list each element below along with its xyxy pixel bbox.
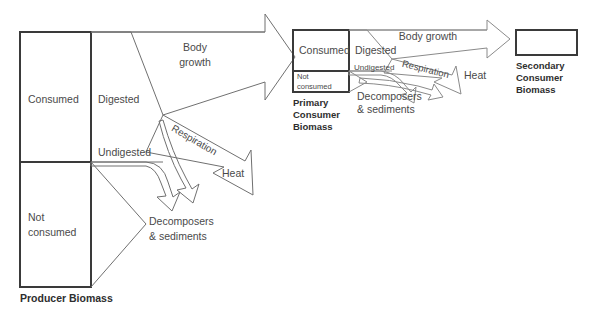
body-growth-label-level1-line2: growth [179, 56, 211, 68]
decomposers-label-level2-line1: Decomposers [357, 90, 422, 102]
energy-flow-diagram: Consumed Not consumed Producer Biomass D… [0, 0, 594, 324]
undigested-decomposer-arrow-level1 [91, 162, 180, 211]
producer-biomass-caption: Producer Biomass [20, 292, 113, 304]
undigested-label-level2: Undigested [354, 63, 394, 72]
secondary-biomass-caption-line2: Consumer [516, 72, 563, 83]
digested-label-level1: Digested [98, 93, 140, 105]
primary-not-consumed-label-line1: Not [297, 72, 310, 81]
primary-not-consumed-label-line2: consumed [297, 82, 332, 91]
primary-biomass-caption-line1: Primary [293, 97, 329, 108]
secondary-biomass-caption-line1: Secondary [516, 60, 565, 71]
body-growth-label-level2: Body growth [399, 30, 458, 42]
heat-label-level1: Heat [222, 167, 244, 179]
primary-biomass-caption-line3: Biomass [293, 121, 333, 132]
flow-diagram-canvas: Consumed Not consumed Producer Biomass D… [0, 0, 594, 324]
decomposers-label-level1-line2: & sediments [149, 230, 207, 242]
respiration-arrow-level1 [146, 115, 253, 195]
decomposers-label-level2-line2: & sediments [357, 103, 415, 115]
heat-label-level2: Heat [464, 69, 486, 81]
undigested-label-level1: Undigested [98, 146, 151, 158]
primary-consumed-label: Consumed [299, 44, 350, 56]
secondary-biomass-caption-line3: Biomass [516, 84, 556, 95]
producer-consumed-label: Consumed [28, 93, 79, 105]
primary-biomass-caption-line2: Consumer [293, 109, 340, 120]
not-consumed-triangle-level1 [91, 162, 146, 287]
respiration-label-level1: Respiration [170, 122, 219, 157]
digested-label-level2: Digested [355, 44, 397, 56]
decomposers-label-level1-line1: Decomposers [149, 215, 214, 227]
producer-not-consumed-label-line1: Not [28, 211, 44, 223]
secondary-consumer-box [516, 30, 577, 55]
producer-not-consumed-label-line2: consumed [28, 226, 77, 238]
body-growth-label-level1-line1: Body [183, 41, 208, 53]
producer-not-consumed-box [20, 162, 91, 287]
